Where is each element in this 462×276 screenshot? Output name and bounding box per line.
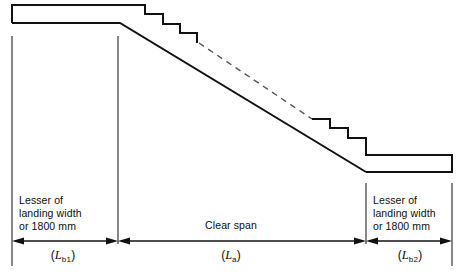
arrowhead-lb2-left [366,238,378,245]
symbol-lb2: (Lb2) [380,248,440,264]
arrowhead-lb2-right [440,238,452,245]
clear-span-label: Clear span [0,219,462,231]
soffit-line [12,23,366,172]
symbol-lb2-close: ) [418,248,422,262]
right-note-line-1: Lesser of [373,194,436,207]
arrowhead-lb1-left [12,238,24,245]
symbol-lb2-letter: L [402,248,409,262]
stair-profile-bottom [312,119,452,172]
arrowhead-la-right [354,238,366,245]
left-note-line-1: Lesser of [19,194,82,207]
stair-span-diagram: Lesser of landing width or 1800 mm Lesse… [0,0,462,276]
symbol-lb2-sub: b2 [409,255,419,264]
arrowhead-lb1-right [106,238,118,245]
diagram-canvas [0,0,462,276]
symbol-la-close: ) [237,248,241,262]
arrowhead-la-left [118,238,130,245]
